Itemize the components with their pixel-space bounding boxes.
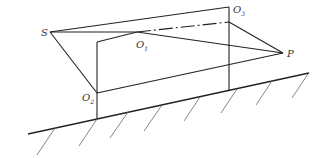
label-o2: O2 (82, 92, 94, 105)
ground-hatching (37, 74, 308, 155)
label-s: S (41, 27, 48, 38)
line-dashdot-o1-to-vertical (137, 22, 229, 32)
label-p: P (286, 48, 294, 59)
line-s-to-o2 (50, 32, 97, 93)
line-inner-top (97, 32, 137, 42)
line-o1-to-p (137, 32, 283, 53)
line-o2-to-p (97, 53, 283, 93)
line-vertical-to-p (229, 22, 283, 53)
perspective-diagram: S O1 O2 O3 P (0, 0, 324, 158)
label-o1: O1 (136, 39, 148, 52)
ground-line (28, 73, 309, 134)
line-s-to-o3 (50, 7, 229, 32)
label-o3: O3 (233, 4, 245, 17)
construction-lines (28, 7, 309, 134)
